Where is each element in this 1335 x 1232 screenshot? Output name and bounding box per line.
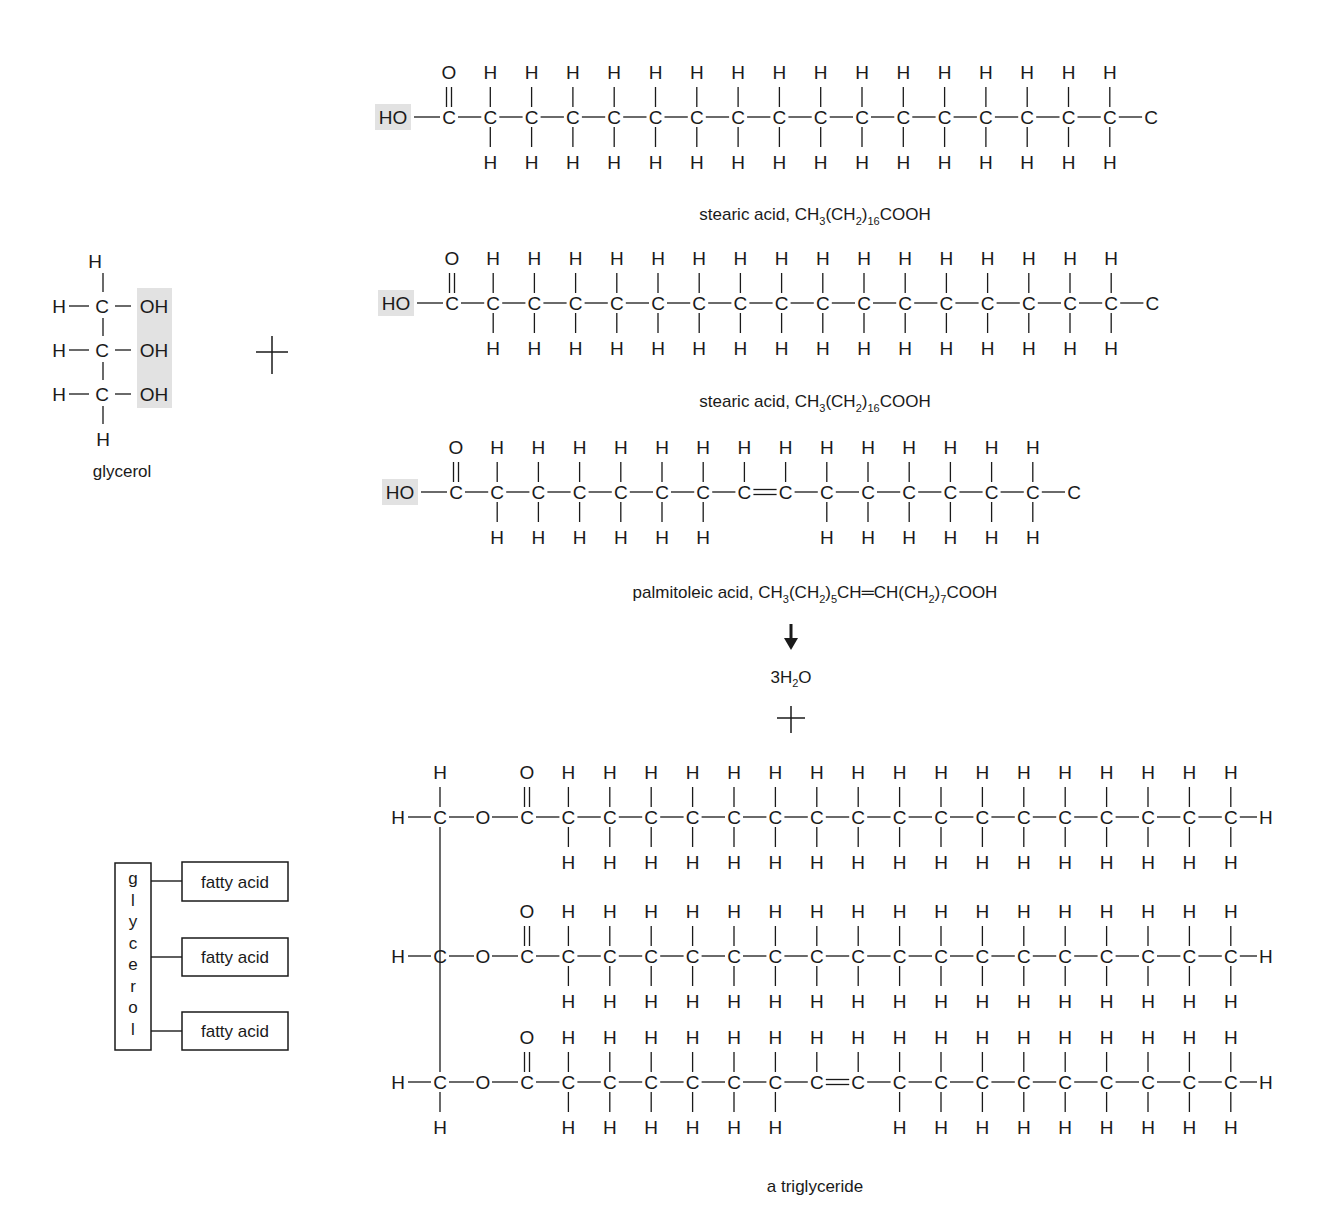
backbone-letter: c [129, 934, 138, 953]
fatty-acid-label-2: fatty acid [201, 948, 269, 967]
hydrogen-bottom: H [1020, 152, 1034, 173]
chain-carbon: C [1141, 1072, 1155, 1093]
hydrogen-bottom: H [686, 991, 700, 1012]
hydrogen-top: H [603, 1027, 617, 1048]
carbonyl-carbon: C [445, 293, 459, 314]
hydrogen-top: H [1022, 248, 1036, 269]
hydrogen-top: H [562, 901, 576, 922]
hydrogen-top: H [938, 62, 952, 83]
chain-carbon: C [727, 1072, 741, 1093]
hydrogen-bottom: H [893, 852, 907, 873]
hydrogen-top: H [855, 62, 869, 83]
hydrogen-bottom: H [1141, 1117, 1155, 1138]
chain-terminal: C [1067, 482, 1081, 503]
hydrogen-bottom: H [940, 338, 954, 359]
chain-carbon: C [979, 107, 993, 128]
chain-carbon: C [779, 482, 793, 503]
chain-carbon: C [1104, 293, 1118, 314]
chain-carbon: C [1020, 107, 1034, 128]
chain-carbon: C [734, 293, 748, 314]
triglyceride-molecule: HCHOCOCHHCHHCHHCHHCHHCHHCHHCHHCHHCHHCHHC… [391, 762, 1273, 1138]
hydrogen-top: H [690, 62, 704, 83]
hydrogen-bottom: H [769, 991, 783, 1012]
chain-carbon: C [773, 107, 787, 128]
hydrogen-bottom: H [607, 152, 621, 173]
hydrogen-bottom: H [696, 527, 710, 548]
hydrogen-bottom: H [1063, 338, 1077, 359]
backbone-carbon: C [433, 946, 447, 967]
hydrogen-top: H [1224, 762, 1238, 783]
ester-oxygen: O [476, 1072, 491, 1093]
chain-carbon: C [603, 1072, 617, 1093]
hydrogen-bottom: H [731, 152, 745, 173]
hydrogen-bottom: H [562, 991, 576, 1012]
hydrogen-bottom: H [934, 991, 948, 1012]
hydrogen-top: H [644, 1027, 658, 1048]
chain-carbon: C [1058, 1072, 1072, 1093]
hydrogen-top: H [562, 762, 576, 783]
glycerol-h-left-2: H [52, 340, 66, 361]
hydrogen-top: H [727, 762, 741, 783]
hydrogen-bottom: H [1017, 852, 1031, 873]
chain-carbon: C [651, 293, 665, 314]
hydrogen-top: H [898, 248, 912, 269]
hydrogen-bottom: H [934, 1117, 948, 1138]
hydrogen-bottom: H [810, 991, 824, 1012]
backbone-letter: g [128, 869, 137, 888]
chain-carbon: C [528, 293, 542, 314]
glycerol-h-left-3: H [52, 384, 66, 405]
chain-carbon: C [1026, 482, 1040, 503]
chain-carbon: C [893, 946, 907, 967]
chain-carbon: C [934, 807, 948, 828]
hydrogen-top: H [566, 62, 580, 83]
chain-carbon: C [1100, 946, 1114, 967]
chain-carbon: C [686, 946, 700, 967]
hydrogen-top: H [979, 62, 993, 83]
hydrogen-bottom: H [857, 338, 871, 359]
carbonyl-oxygen: O [520, 901, 535, 922]
hydrogen-top: H [902, 437, 916, 458]
hydrogen-bottom: H [1100, 991, 1114, 1012]
backbone-letter: o [128, 998, 137, 1017]
triglyceride-schematic: glycerol fatty acid fatty acid fatty aci… [115, 862, 288, 1050]
hydrogen-bottom: H [902, 527, 916, 548]
hydrogen-top: H [727, 901, 741, 922]
hydrogen-top: H [692, 248, 706, 269]
carbonyl-carbon: C [449, 482, 463, 503]
hydrogen-top: H [1104, 248, 1118, 269]
chain-carbon: C [649, 107, 663, 128]
hydrogen-top: H [528, 248, 542, 269]
triglyceride-ester-row-3: HCHOCOCHHCHHCHHCHHCHHCHHCHCHCHHCHHCHHCHH… [391, 1027, 1273, 1138]
chain-carbon: C [727, 946, 741, 967]
hydrogen-top: H [569, 248, 583, 269]
hydrogen-top: H [525, 62, 539, 83]
chain-carbon: C [1141, 807, 1155, 828]
hydrogen-top: H [981, 248, 995, 269]
chain-carbon: C [934, 946, 948, 967]
ester-oxygen: O [476, 807, 491, 828]
chain-carbon: C [769, 946, 783, 967]
hydrogen-top: H [810, 762, 824, 783]
chain-carbon: C [1058, 946, 1072, 967]
chain-carbon: C [569, 293, 583, 314]
chain-carbon: C [1017, 946, 1031, 967]
hydrogen-bottom: H [1017, 1117, 1031, 1138]
hydrogen-top: H [857, 248, 871, 269]
chain-carbon: C [603, 807, 617, 828]
hydrogen-top: H [1026, 437, 1040, 458]
hydrogen-top: H [1141, 762, 1155, 783]
hydrogen-bottom: H [486, 338, 500, 359]
chain-carbon: C [566, 107, 580, 128]
hydrogen-bottom: H [573, 527, 587, 548]
backbone-letter: l [131, 891, 135, 910]
hydrogen-top: H [610, 248, 624, 269]
hydrogen-bottom: H [820, 527, 834, 548]
hydrogen-top: H [649, 62, 663, 83]
hydrogen-top: H [940, 248, 954, 269]
backbone-letter: l [131, 1020, 135, 1039]
chain-carbon: C [985, 482, 999, 503]
hydrogen-bottom: H [690, 152, 704, 173]
hydrogen-bottom: H [644, 991, 658, 1012]
hydrogen-top: H [893, 762, 907, 783]
chain-carbon: C [1100, 1072, 1114, 1093]
